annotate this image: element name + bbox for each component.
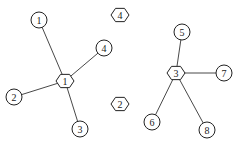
edge-h1-c1 <box>39 20 65 81</box>
edge-h3-c8 <box>176 73 207 130</box>
node-label: 3 <box>78 124 83 135</box>
hexagon-node-1: 1 <box>56 74 74 87</box>
circle-node-4: 4 <box>96 40 112 56</box>
node-label: 3 <box>174 68 179 79</box>
hexagon-node-4: 4 <box>111 8 129 21</box>
node-label: 1 <box>37 15 42 26</box>
graph-canvas: 123412345678 <box>0 0 237 148</box>
node-label: 1 <box>63 76 68 87</box>
node-label: 2 <box>12 92 17 103</box>
node-label: 8 <box>205 125 210 136</box>
circle-node-6: 6 <box>144 114 160 130</box>
circle-node-8: 8 <box>199 122 215 138</box>
node-label: 4 <box>118 10 123 21</box>
node-label: 5 <box>180 27 185 38</box>
circle-node-3: 3 <box>72 121 88 137</box>
circle-node-5: 5 <box>174 24 190 40</box>
node-label: 7 <box>222 68 227 79</box>
node-label: 4 <box>102 43 107 54</box>
circle-node-2: 2 <box>6 89 22 105</box>
edges-layer <box>14 20 224 130</box>
hexagon-node-3: 3 <box>167 66 185 79</box>
hexagon-node-2: 2 <box>111 97 129 110</box>
circle-node-7: 7 <box>216 65 232 81</box>
circle-node-1: 1 <box>31 12 47 28</box>
node-label: 2 <box>118 99 123 110</box>
graph-diagram: 123412345678 <box>0 0 237 148</box>
node-label: 6 <box>150 117 155 128</box>
